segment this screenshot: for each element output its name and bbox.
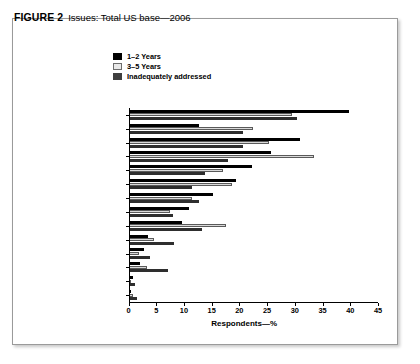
- figure-number: FIGURE 2: [14, 11, 63, 23]
- legend-item[interactable]: 3–5 Years: [113, 62, 211, 71]
- legend-swatch-icon: [113, 73, 122, 80]
- figure-title: Issues: Total US base—2006: [68, 12, 190, 23]
- legend-item-label: 3–5 Years: [127, 62, 161, 71]
- legend-item[interactable]: 1–2 Years: [113, 52, 211, 61]
- legend-item[interactable]: Inadequately addressed: [113, 72, 211, 81]
- legend-swatch-icon: [113, 63, 122, 70]
- figure-caption: FIGURE 2Issues: Total US base—2006: [14, 11, 191, 24]
- legend-swatch-icon: [113, 53, 122, 60]
- chart-legend: 1–2 Years3–5 YearsInadequately addressed: [113, 52, 211, 82]
- legend-item-label: 1–2 Years: [127, 52, 161, 61]
- legend-item-label: Inadequately addressed: [127, 72, 211, 81]
